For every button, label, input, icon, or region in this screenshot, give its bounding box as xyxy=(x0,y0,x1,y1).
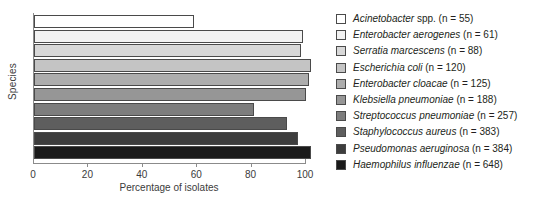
x-axis-title: Percentage of isolates xyxy=(33,182,305,193)
legend-label: Enterobacter aerogenes (n = 61) xyxy=(353,30,498,40)
bar xyxy=(34,59,311,72)
x-tick-label: 80 xyxy=(245,169,256,180)
bar xyxy=(34,146,311,159)
legend-item[interactable]: Staphylococcus aureus (n = 383) xyxy=(336,124,541,140)
bar xyxy=(34,132,298,145)
legend-item[interactable]: Enterobacter aerogenes (n = 61) xyxy=(336,27,541,43)
x-axis-line xyxy=(33,163,305,164)
legend-item[interactable]: Serratia marcescens (n = 88) xyxy=(336,43,541,59)
bar xyxy=(34,73,309,86)
legend-label: Enterobacter cloacae (n = 125) xyxy=(353,79,491,89)
legend-item[interactable]: Streptococcus pneumoniae (n = 257) xyxy=(336,108,541,124)
x-tick-label: 40 xyxy=(136,169,147,180)
legend-swatch xyxy=(336,160,346,170)
x-tick xyxy=(196,163,197,167)
legend-label: Staphylococcus aureus (n = 383) xyxy=(353,127,500,137)
legend-swatch xyxy=(336,95,346,105)
legend-swatch xyxy=(336,111,346,121)
bar xyxy=(34,103,254,116)
legend-swatch xyxy=(336,14,346,24)
bar xyxy=(34,117,287,130)
legend-item[interactable]: Klebsiella pneumoniae (n = 188) xyxy=(336,92,541,108)
x-tick xyxy=(142,163,143,167)
legend-item[interactable]: Acinetobacter spp. (n = 55) xyxy=(336,11,541,27)
legend-label: Pseudomonas aeruginosa (n = 384) xyxy=(353,144,512,154)
legend-label: Streptococcus pneumoniae (n = 257) xyxy=(353,111,517,121)
legend-item[interactable]: Enterobacter cloacae (n = 125) xyxy=(336,76,541,92)
legend-label: Haemophilus influenzae (n = 648) xyxy=(353,160,503,170)
legend-label: Serratia marcescens (n = 88) xyxy=(353,46,482,56)
plot-area: Species 020406080100 Percentage of isola… xyxy=(0,0,330,198)
bar xyxy=(34,44,301,57)
x-tick-label: 0 xyxy=(30,169,36,180)
legend-label: Acinetobacter spp. (n = 55) xyxy=(353,14,473,24)
legend-swatch xyxy=(336,46,346,56)
legend-item[interactable]: Escherichia coli (n = 120) xyxy=(336,60,541,76)
legend-item[interactable]: Haemophilus influenzae (n = 648) xyxy=(336,157,541,173)
x-tick-label: 20 xyxy=(82,169,93,180)
legend: Acinetobacter spp. (n = 55)Enterobacter … xyxy=(336,11,541,173)
legend-swatch xyxy=(336,30,346,40)
x-tick xyxy=(251,163,252,167)
x-tick xyxy=(87,163,88,167)
bar-chart-figure: Species 020406080100 Percentage of isola… xyxy=(0,0,541,198)
legend-swatch xyxy=(336,127,346,137)
legend-swatch xyxy=(336,63,346,73)
legend-swatch xyxy=(336,79,346,89)
bar xyxy=(34,30,303,43)
bar xyxy=(34,15,194,28)
bar-series xyxy=(34,15,330,162)
x-tick-label: 60 xyxy=(191,169,202,180)
bar xyxy=(34,88,306,101)
legend-label: Escherichia coli (n = 120) xyxy=(353,63,466,73)
y-axis-title: Species xyxy=(7,47,18,117)
legend-swatch xyxy=(336,144,346,154)
legend-item[interactable]: Pseudomonas aeruginosa (n = 384) xyxy=(336,141,541,157)
legend-label: Klebsiella pneumoniae (n = 188) xyxy=(353,95,497,105)
x-tick-label: 100 xyxy=(297,169,314,180)
